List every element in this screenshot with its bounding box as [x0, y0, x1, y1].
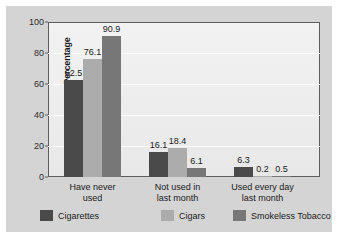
bar-value-label: 16.1	[150, 140, 168, 150]
x-axis-label-line: Used every day	[231, 182, 294, 193]
bar-value-label: 6.3	[237, 155, 250, 165]
y-axis-tick-label: 100	[29, 17, 44, 27]
x-axis-category-label: Not used inlast month	[155, 182, 201, 204]
bar	[234, 167, 253, 177]
y-axis-tick-label: 20	[34, 141, 44, 151]
chart-figure: Percentage 020406080100 62.576.190.916.1…	[6, 6, 332, 232]
bar	[253, 176, 272, 177]
legend-item[interactable]: Smokeless Tobacco	[233, 210, 331, 221]
bar	[64, 80, 83, 177]
legend-label: Smokeless Tobacco	[251, 211, 331, 221]
bar	[83, 59, 102, 177]
x-axis-label-line: Have never	[69, 182, 115, 193]
bar-value-label: 76.1	[84, 47, 102, 57]
x-axis-label-line: last month	[155, 193, 201, 204]
y-axis-tick-label: 80	[34, 48, 44, 58]
bar-value-label: 0.2	[256, 164, 269, 174]
bar-value-label: 18.4	[169, 136, 187, 146]
bar	[272, 176, 291, 177]
x-axis-label-line: Not used in	[155, 182, 201, 193]
bar-value-label: 62.5	[65, 68, 83, 78]
bar	[149, 152, 168, 177]
bar-value-label: 90.9	[103, 24, 121, 34]
x-axis-category-label: Have neverused	[69, 182, 115, 204]
legend-label: Cigarettes	[58, 211, 99, 221]
legend-label: Cigars	[179, 211, 205, 221]
bar-value-label: 0.5	[275, 164, 288, 174]
x-axis-labels: Have neverusedNot used inlast monthUsed …	[48, 180, 320, 210]
bar-value-label: 6.1	[190, 156, 203, 166]
plot-area: Percentage 020406080100 62.576.190.916.1…	[48, 22, 320, 177]
legend-swatch	[233, 210, 246, 221]
bar	[187, 168, 206, 177]
chart-legend: CigarettesCigarsSmokeless Tobacco	[18, 207, 320, 224]
bars-layer	[48, 22, 320, 177]
y-axis-tick-label: 40	[34, 110, 44, 120]
y-axis-tick-label: 60	[34, 79, 44, 89]
bar	[102, 36, 121, 177]
bar	[168, 148, 187, 177]
x-axis-label-line: last month	[231, 193, 294, 204]
x-axis-category-label: Used every daylast month	[231, 182, 294, 204]
x-axis-label-line: used	[69, 193, 115, 204]
legend-swatch	[161, 210, 174, 221]
y-axis-tick-label: 0	[39, 172, 44, 182]
legend-swatch	[40, 210, 53, 221]
legend-item[interactable]: Cigarettes	[40, 210, 99, 221]
legend-item[interactable]: Cigars	[161, 210, 205, 221]
